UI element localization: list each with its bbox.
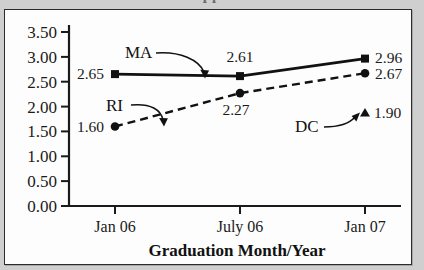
series-ri-marker: [361, 69, 370, 78]
chart-frame: 3.50 3.00 2.50 2.00 1.50 1.00 0.50 0.00 …: [4, 9, 412, 265]
series-ma-marker: [361, 55, 369, 63]
y-tick-label: 3.50: [27, 23, 57, 42]
y-tick-label: 0.50: [27, 172, 57, 191]
annotation-dc: DC: [295, 113, 360, 137]
annotation-ma-arrow: [156, 53, 204, 72]
y-axis-ticks: [61, 32, 69, 206]
x-axis-title: Graduation Month/Year: [148, 241, 326, 260]
series-ri-line: [115, 73, 365, 126]
chart-screenshot: pp 3.50 3.00 2.50: [0, 0, 424, 270]
annotation-ma-label: MA: [125, 43, 153, 62]
y-tick-label: 2.00: [27, 98, 57, 117]
data-label-ri-jan07: 2.67: [375, 65, 402, 82]
y-tick-label: 2.50: [27, 73, 57, 92]
series-ma-marker: [111, 70, 119, 78]
x-tick-label: Jan 06: [94, 218, 135, 235]
data-label-ri-july06: 2.27: [222, 101, 249, 118]
y-tick-label: 0.00: [27, 197, 57, 216]
series-ma-marker: [236, 72, 244, 80]
x-tick-label: Jan 07: [344, 218, 385, 235]
series-dc-marker: [360, 108, 370, 117]
annotation-ri: RI: [106, 96, 168, 127]
annotation-ri-label: RI: [106, 96, 123, 115]
data-label-ri-jan06: 1.60: [77, 118, 104, 135]
line-chart-plot: 3.50 3.00 2.50 2.00 1.50 1.00 0.50 0.00 …: [5, 10, 410, 263]
y-tick-label: 3.00: [27, 48, 57, 67]
x-axis-ticks: [115, 206, 365, 214]
series-dc: [360, 108, 370, 117]
series-ri-marker: [111, 122, 120, 131]
x-axis-tick-labels: Jan 06 July 06 Jan 07: [94, 218, 385, 236]
series-ri-marker: [236, 89, 245, 98]
y-tick-label: 1.00: [27, 147, 57, 166]
clipped-title-remnant: pp: [0, 0, 424, 9]
data-label-ma-july06: 2.61: [226, 48, 253, 65]
data-label-dc-jan07: 1.90: [374, 104, 401, 121]
annotation-ri-arrowhead: [159, 118, 168, 127]
annotation-dc-label: DC: [295, 117, 319, 136]
data-label-ma-jan07: 2.96: [375, 49, 402, 66]
y-tick-label: 1.50: [27, 122, 57, 141]
x-tick-label: July 06: [217, 218, 264, 236]
annotation-dc-arrow: [324, 117, 355, 127]
data-label-ma-jan06: 2.65: [77, 65, 104, 82]
y-axis-tick-labels: 3.50 3.00 2.50 2.00 1.50 1.00 0.50 0.00: [27, 23, 57, 216]
